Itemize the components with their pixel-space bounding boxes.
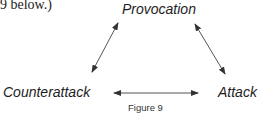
arrow-provocation-counterattack <box>92 23 118 72</box>
arrow-provocation-attack <box>195 24 225 74</box>
figure-caption: Figure 9 <box>128 102 163 113</box>
arrows-diagram <box>0 0 263 117</box>
